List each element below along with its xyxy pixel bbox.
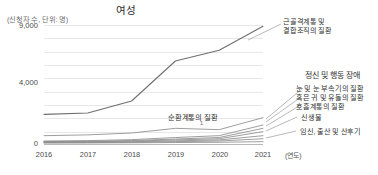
callout-musculoskeletal: 근골격계통 및 결합조직의 질환 [283,18,332,35]
callout-line-2: 결합조직의 질환 [283,27,332,36]
callout-neoplasm: 신생물 [301,114,321,123]
inline-marker: 1 [200,120,203,126]
callout-mental-behavioral: 정신 및 행동 장애 [305,71,360,81]
callout-respiratory: 호흡계통의 질환 [296,103,345,112]
chart-container: (신청자 수, 단위: 명) 여성 9,000 4,000 0 2016 201… [0,0,378,175]
callout-ear-mastoid: 혹은 귀 및 유돌의 질환 [296,94,364,103]
inline-label-circulatory: 순환계통의 질환 [168,111,217,122]
callout-pregnancy-childbirth: 임신, 출산 및 산후기 [300,128,361,137]
callout-eye-adnexa: 눈 및 눈 부속기의 질환 [296,85,364,94]
callout-line-1: 근골격계통 및 [283,18,332,27]
